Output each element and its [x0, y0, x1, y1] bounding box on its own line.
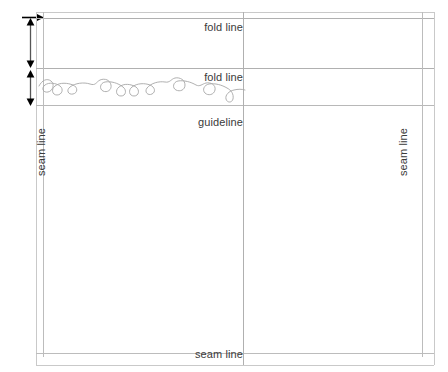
- label-fold-line-top: fold line: [143, 21, 243, 33]
- fold-line-second: [36, 68, 434, 69]
- label-fold-line-second: fold line: [143, 71, 243, 83]
- fabric-outer-left-edge: [36, 12, 37, 365]
- dimension-label-half-inch: .5": [0, 12, 12, 26]
- pattern-layout-diagram: .5" 6" 4.5": [0, 0, 448, 372]
- label-guideline: guideline: [143, 116, 243, 128]
- fold-line-top: [36, 18, 434, 19]
- dimension-label-four-point-five-inch: 4.5": [0, 91, 12, 112]
- fabric-outer-bottom-edge: [36, 365, 434, 366]
- dimension-label-six-inch: 6": [0, 51, 12, 62]
- fabric-outer-top-edge: [36, 12, 434, 13]
- label-seam-line-left: seam line: [36, 128, 47, 176]
- seam-line-left: [43, 12, 44, 357]
- guideline-horizontal: [36, 105, 434, 106]
- dimension-arrow-four-point-five-inch: [26, 70, 35, 106]
- center-fold-line-vertical: [243, 12, 244, 365]
- label-seam-line-bottom: seam line: [143, 348, 243, 360]
- fabric-outer-right-edge: [434, 12, 435, 365]
- seam-line-right: [422, 12, 423, 357]
- label-seam-line-right: seam line: [398, 128, 409, 176]
- dimension-arrow-six-inch: [26, 18, 35, 68]
